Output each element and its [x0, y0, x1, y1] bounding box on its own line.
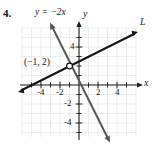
xtick-label-2: 2	[96, 88, 101, 97]
line-y-equals-minus-2x	[50, 23, 110, 143]
ytick-label-minus4: -4	[64, 118, 72, 127]
point-marker-open-circle	[67, 63, 73, 69]
xtick-label-4: 4	[115, 88, 120, 97]
y-axis-label: y	[83, 9, 87, 19]
x-axis-label: x	[144, 78, 148, 88]
xtick-label-minus4: -4	[37, 88, 45, 97]
point-coordinate-label: (−1, 2)	[24, 58, 50, 68]
equation-label: y = −2x	[35, 8, 66, 18]
ytick-label-minus2: -2	[64, 99, 72, 108]
xtick-label-minus2: -2	[56, 88, 64, 97]
ytick-label-4: 4	[70, 42, 75, 51]
line-L-label: L	[140, 17, 146, 27]
coordinate-plane-graph	[0, 0, 157, 146]
